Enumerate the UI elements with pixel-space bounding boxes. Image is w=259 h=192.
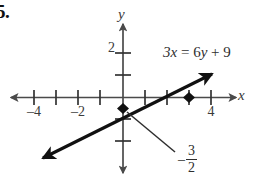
intercept-fraction-label: – 3 2	[178, 144, 197, 175]
equation-right-coefficient: 6	[193, 44, 201, 60]
point-x-intercept	[183, 92, 195, 103]
x-tick-label-minus-4: –4	[23, 105, 45, 119]
y-tick-label-2: 2	[101, 41, 115, 55]
y-axis	[115, 24, 131, 173]
equation-annotation: 3x = 6y + 9	[163, 45, 231, 60]
fraction-denominator: 2	[186, 160, 197, 175]
y-axis-label: y	[118, 7, 125, 22]
fraction-numerator: 3	[186, 144, 197, 159]
x-axis-label: x	[238, 88, 245, 103]
coordinate-plane-svg	[0, 0, 259, 192]
equation-right-rest: + 9	[207, 44, 230, 60]
fraction-stack: 3 2	[186, 144, 197, 175]
graph-figure: 5.	[0, 0, 259, 192]
fraction-minus-sign: –	[178, 153, 185, 167]
leader-line	[127, 112, 175, 152]
x-tick-label-4: 4	[200, 105, 222, 119]
x-tick-label-minus-2: –2	[67, 105, 89, 119]
equation-left: 3x	[163, 44, 177, 60]
